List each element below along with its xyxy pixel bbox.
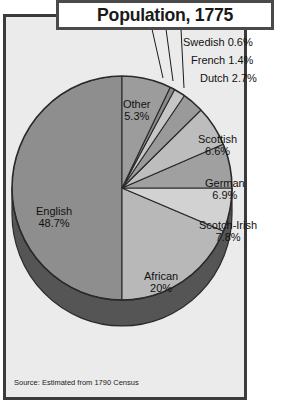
label-scottish-name: Scottish	[198, 133, 237, 145]
label-african-name: African	[144, 270, 178, 282]
label-french: French 1.4%	[191, 54, 253, 66]
source-note: Source: Estimated from 1790 Census	[14, 378, 139, 387]
label-swedish-text: Swedish 0.6%	[183, 36, 253, 48]
label-african-value: 20%	[144, 282, 178, 294]
label-english-name: English	[36, 205, 72, 217]
label-german-value: 6.9%	[205, 189, 245, 201]
label-french-text: French 1.4%	[191, 54, 253, 66]
label-dutch: Dutch 2.7%	[200, 72, 257, 84]
leader-line-french	[166, 29, 173, 81]
label-other: Other 5.3%	[123, 98, 151, 122]
label-scottish-value: 6.6%	[198, 145, 237, 157]
page-title: Population, 1775	[97, 4, 233, 26]
label-african: African 20%	[144, 270, 178, 294]
label-english: English 48.7%	[36, 205, 72, 229]
label-english-value: 48.7%	[36, 217, 72, 229]
label-other-name: Other	[123, 98, 151, 110]
title-banner: Population, 1775	[56, 0, 274, 30]
label-dutch-text: Dutch 2.7%	[200, 72, 257, 84]
chart-screenshot: Population, 1775 Swedish 0.6% French 1.4…	[0, 0, 295, 405]
label-scotch-irish: Scotch-Irish 7.8%	[199, 219, 257, 243]
label-scotch-irish-name: Scotch-Irish	[199, 219, 257, 231]
label-german-name: German	[205, 177, 245, 189]
leader-line-swedish	[152, 29, 163, 78]
label-scotch-irish-value: 7.8%	[199, 231, 257, 243]
label-scottish: Scottish 6.6%	[198, 133, 237, 157]
label-german: German 6.9%	[205, 177, 245, 201]
label-swedish: Swedish 0.6%	[183, 36, 253, 48]
label-other-value: 5.3%	[123, 110, 151, 122]
